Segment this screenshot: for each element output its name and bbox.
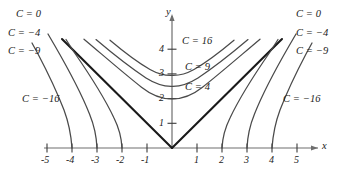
plot-canvas: [0, 0, 345, 175]
x-tick-label-3: 3: [244, 155, 249, 165]
curve-label-left-cm9: C = −9: [8, 46, 40, 57]
curve-label-right-cm16: C = −16: [283, 94, 321, 105]
curve-label-right-c0: C = 0: [296, 9, 321, 20]
curve-cm4-right: [222, 40, 278, 149]
curve-label-c4: C = 4: [185, 82, 210, 93]
y-axis-label: y: [166, 7, 171, 18]
x-tick-label-1: 1: [194, 155, 199, 165]
x-tick-label-5: 5: [294, 155, 299, 165]
x-tick-label--3: -3: [91, 155, 99, 165]
curve-c0-right: [172, 39, 282, 148]
x-tick-label-4: 4: [269, 155, 274, 165]
y-tick-label-3: 3: [159, 68, 164, 78]
level-curves-figure: x y -5 -4 -3 -2 -1 1 2 3 4 5 1 2 3 4 C =…: [0, 0, 345, 175]
x-tick-label--5: -5: [41, 155, 49, 165]
axes-group: [44, 14, 318, 153]
curve-label-c9: C = 9: [185, 62, 210, 73]
curve-label-right-cm4: C = −4: [296, 28, 328, 39]
x-axis-arrow: [311, 145, 318, 150]
x-tick-label--1: -1: [141, 155, 149, 165]
curve-label-left-cm4: C = −4: [8, 28, 40, 39]
curve-cm4-left: [66, 40, 122, 149]
x-tick-label--2: -2: [116, 155, 124, 165]
y-tick-label-1: 1: [159, 118, 164, 128]
curve-label-c16: C = 16: [182, 36, 212, 47]
curve-label-left-cm16: C = −16: [22, 94, 60, 105]
x-tick-label-2: 2: [219, 155, 224, 165]
curve-cm9-right: [247, 34, 296, 148]
curve-label-right-cm9: C = −9: [296, 46, 328, 57]
x-tick-label--4: -4: [66, 155, 74, 165]
curve-c0-left: [62, 39, 172, 148]
curve-cm9-left: [48, 34, 97, 148]
curve-label-left-c0: C = 0: [16, 9, 41, 20]
y-tick-label-2: 2: [159, 93, 164, 103]
y-tick-label-4: 4: [159, 44, 164, 54]
x-axis-label: x: [322, 141, 327, 152]
